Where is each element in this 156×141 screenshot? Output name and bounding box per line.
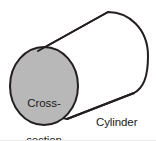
cylinder-shape-label: Cylinder <box>96 116 137 128</box>
cross-section-label: Cross- section <box>14 72 74 141</box>
cross-section-label-line1: Cross- <box>14 97 74 109</box>
bottom-divider <box>0 140 156 141</box>
cylinder-figure: Cross- section Cylinder <box>0 0 156 141</box>
